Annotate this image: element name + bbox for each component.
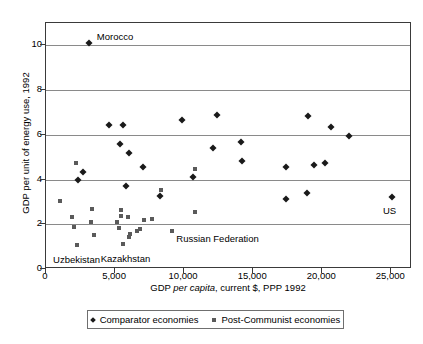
data-point-post-communist [89,220,93,224]
y-axis-tick-label: 8 [20,84,42,94]
data-point-comparator [125,149,132,156]
data-point-post-communist [115,220,119,224]
data-point-comparator [304,113,311,120]
x-axis-tick-mark [390,268,391,273]
square-marker-icon [212,318,216,322]
data-point-comparator [116,140,123,147]
y-axis-tick-label: 10 [20,39,42,49]
data-point-post-communist [74,161,78,165]
gridline-y [46,224,410,225]
data-point-post-communist [138,227,142,231]
data-point-comparator [210,144,217,151]
data-point-comparator [75,177,82,184]
y-axis-tick-label: 0 [20,263,42,273]
annotation-label: US [383,206,396,216]
data-point-comparator [178,116,185,123]
annotation-label: Uzbekistan [53,255,100,265]
x-axis-tick-mark [252,268,253,273]
legend-label-comparator: Comparator economies [100,314,199,325]
legend-item-post-communist: Post-Communist economies [212,314,340,325]
gridline-y [46,45,410,46]
data-point-comparator [156,192,163,199]
diamond-marker-icon [90,317,96,323]
x-axis-title-part2: , current $, PPP 1992 [215,282,306,293]
x-axis-title-part1: GDP [150,282,173,293]
gridline-y [46,180,410,181]
data-point-comparator [282,164,289,171]
data-point-post-communist [128,232,132,236]
data-point-post-communist [92,233,96,237]
data-point-post-communist [119,214,123,218]
data-point-comparator [238,138,245,145]
data-point-comparator [328,124,335,131]
data-point-comparator [79,169,86,176]
data-point-comparator [388,193,395,200]
legend-label-post-communist: Post-Communist economies [221,314,340,325]
data-point-comparator [105,121,112,128]
data-point-comparator [321,160,328,167]
scatter-chart-figure: GDP per unit of energy use, 1992 0246810… [0,0,423,344]
data-point-post-communist [70,215,74,219]
y-axis-tick-label: 2 [20,218,42,228]
chart-legend: Comparator economies Post-Communist econ… [87,310,344,329]
plot-area: MoroccoUSUzbekistanKazakhstanRussian Fed… [45,22,411,268]
data-point-post-communist [150,217,154,221]
data-point-comparator [303,189,310,196]
gridline-y [46,90,410,91]
x-axis-title-italic: per capita [173,282,215,293]
x-axis-tick-mark [45,268,46,273]
data-point-comparator [139,163,146,170]
data-point-post-communist [126,215,130,219]
annotation-label: Morocco [97,32,133,42]
data-point-comparator [239,158,246,165]
x-axis-tick-mark [114,268,115,273]
y-axis-tick-label: 4 [20,174,42,184]
data-point-post-communist [90,207,94,211]
data-point-post-communist [119,208,123,212]
data-point-post-communist [72,225,76,229]
x-axis-title: GDP per capita, current $, PPP 1992 [45,282,411,293]
annotation-label: Kazakhstan [101,254,151,264]
annotation-label: Russian Federation [176,234,258,244]
data-point-comparator [123,182,130,189]
data-point-comparator [310,161,317,168]
data-point-comparator [283,196,290,203]
data-point-post-communist [142,218,146,222]
data-point-post-communist [117,226,121,230]
data-point-post-communist [58,199,62,203]
data-point-post-communist [121,242,125,246]
y-axis-tick-label: 6 [20,129,42,139]
data-point-comparator [120,122,127,129]
x-axis-tick-mark [183,268,184,273]
data-point-post-communist [75,243,79,247]
data-point-post-communist [193,210,197,214]
data-point-post-communist [193,167,197,171]
data-point-post-communist [170,229,174,233]
data-point-post-communist [159,188,163,192]
y-axis-title: GDP per unit of energy use, 1992 [20,18,34,268]
data-point-comparator [213,112,220,119]
legend-item-comparator: Comparator economies [91,314,199,325]
x-axis-tick-mark [321,268,322,273]
gridline-y [46,135,410,136]
